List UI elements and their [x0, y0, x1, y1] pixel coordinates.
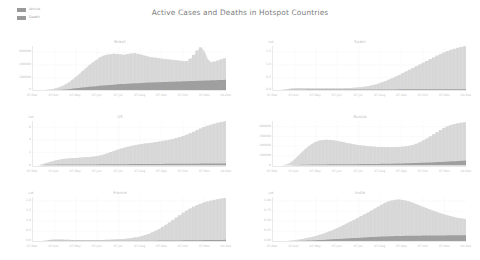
subplot-brazil: Brazil020000040000060000007-Mar07-Apr07-…	[0, 34, 240, 109]
x-tick-label: 07-Apr	[288, 245, 298, 248]
plot-area: 0200000400000600000	[32, 46, 226, 91]
x-tick-label: 07-Aug	[134, 94, 145, 97]
x-axis-ticks: 07-Mar07-Apr07-May07-Jun07-Jul07-Aug07-S…	[32, 170, 226, 176]
y-tick-label: 1.5	[266, 51, 271, 54]
x-tick-label: 07-Apr	[48, 170, 58, 173]
y-tick-label: 1.00	[264, 199, 271, 202]
figure-canvas: Active Death Active Cases and Deaths in …	[0, 0, 480, 260]
x-tick-label: 07-Mar	[267, 170, 278, 173]
x-tick-label: 07-Sep	[156, 170, 167, 173]
y-tick-label: 0	[29, 89, 31, 92]
x-tick-label: 07-Aug	[374, 245, 385, 248]
x-axis-ticks: 07-Mar07-Apr07-May07-Jun07-Jul07-Aug07-S…	[272, 94, 466, 100]
x-tick-label: 07-Nov	[199, 94, 210, 97]
x-axis-ticks: 07-Mar07-Apr07-May07-Jun07-Jul07-Aug07-S…	[272, 245, 466, 251]
y-axis-exponent: 1e6	[28, 115, 34, 119]
subplot-title: Brazil	[0, 39, 240, 44]
x-tick-label: 07-Oct	[418, 94, 428, 97]
y-tick-label: 400000	[259, 126, 271, 129]
x-tick-label: 07-Nov	[199, 245, 210, 248]
x-tick-label: 07-Sep	[396, 94, 407, 97]
y-tick-label: 400000	[19, 63, 31, 66]
plot-area: 0.00.51.01.5	[272, 46, 466, 91]
x-tick-label: 07-Jun	[92, 170, 102, 173]
y-tick-label: 0.5	[26, 229, 31, 232]
x-tick-label: 07-Apr	[288, 170, 298, 173]
subplot-russia: Russia010000020000030000040000007-Mar07-…	[240, 109, 480, 184]
x-tick-label: 07-Aug	[134, 245, 145, 248]
x-axis-ticks: 07-Mar07-Apr07-May07-Jun07-Jul07-Aug07-S…	[32, 245, 226, 251]
x-tick-label: 07-Jun	[92, 245, 102, 248]
x-tick-label: 07-Jul	[114, 170, 123, 173]
x-tick-label: 07-May	[69, 245, 80, 248]
plot-area: 0246	[32, 121, 226, 166]
x-tick-label: 07-May	[309, 245, 320, 248]
x-tick-label: 07-Mar	[267, 245, 278, 248]
x-tick-label: 07-Jun	[92, 94, 102, 97]
x-tick-label: 07-Nov	[439, 245, 450, 248]
x-tick-label: 07-May	[309, 94, 320, 97]
subplot-france: France1e60.00.51.01.52.007-Mar07-Apr07-M…	[0, 185, 240, 260]
plot-area: 0.00.51.01.52.0	[32, 197, 226, 242]
x-tick-label: 07-Aug	[374, 170, 385, 173]
x-tick-label: 04-Dec	[461, 170, 472, 173]
x-tick-label: 07-Sep	[156, 94, 167, 97]
x-tick-label: 07-Apr	[48, 94, 58, 97]
x-tick-label: 07-May	[309, 170, 320, 173]
x-tick-label: 04-Dec	[221, 245, 232, 248]
figure-title: Active Cases and Deaths in Hotspot Count…	[0, 8, 480, 17]
x-tick-label: 07-Jun	[332, 245, 342, 248]
y-axis-exponent: 1e6	[268, 40, 274, 44]
x-tick-label: 04-Dec	[221, 170, 232, 173]
y-axis-exponent: 1e6	[268, 191, 274, 195]
x-tick-label: 07-Aug	[134, 170, 145, 173]
y-tick-label: 1.0	[266, 63, 271, 66]
y-tick-label: 0.0	[26, 239, 31, 242]
x-tick-label: 07-Mar	[267, 94, 278, 97]
x-tick-label: 07-Apr	[288, 94, 298, 97]
x-tick-label: 07-Nov	[439, 170, 450, 173]
x-tick-label: 07-Mar	[27, 245, 38, 248]
y-tick-label: 0.00	[264, 239, 271, 242]
y-tick-label: 0.50	[264, 219, 271, 222]
subplot-grid: Brazil020000040000060000007-Mar07-Apr07-…	[0, 34, 480, 260]
subplot-title: Spain	[240, 39, 480, 44]
subplot-spain: Spain1e60.00.51.01.507-Mar07-Apr07-May07…	[240, 34, 480, 109]
x-tick-label: 07-Oct	[178, 170, 188, 173]
y-tick-label: 1.0	[26, 219, 31, 222]
x-tick-label: 07-Sep	[156, 245, 167, 248]
y-tick-label: 300000	[259, 135, 271, 138]
x-tick-label: 07-Oct	[178, 245, 188, 248]
x-tick-label: 07-Jul	[354, 94, 363, 97]
y-tick-label: 600000	[19, 51, 31, 54]
y-tick-label: 2.0	[26, 199, 31, 202]
x-tick-label: 07-Aug	[374, 94, 385, 97]
y-tick-label: 4	[29, 139, 31, 142]
y-tick-label: 0.5	[266, 76, 271, 79]
subplot-title: France	[0, 190, 240, 195]
x-tick-label: 04-Dec	[461, 94, 472, 97]
x-tick-label: 07-Apr	[48, 245, 58, 248]
x-axis-ticks: 07-Mar07-Apr07-May07-Jun07-Jul07-Aug07-S…	[272, 170, 466, 176]
x-tick-label: 07-Jun	[332, 170, 342, 173]
y-tick-label: 0.75	[264, 209, 271, 212]
y-tick-label: 6	[29, 126, 31, 129]
x-tick-label: 07-Jul	[354, 170, 363, 173]
subplot-title: US	[0, 114, 240, 119]
x-tick-label: 07-Mar	[27, 94, 38, 97]
x-tick-label: 07-May	[69, 170, 80, 173]
y-tick-label: 200000	[259, 145, 271, 148]
x-tick-label: 07-Oct	[418, 245, 428, 248]
subplot-india: India1e60.000.250.500.751.0007-Mar07-Apr…	[240, 185, 480, 260]
x-tick-label: 07-Jul	[354, 245, 363, 248]
y-tick-label: 0	[269, 164, 271, 167]
y-tick-label: 0	[29, 164, 31, 167]
x-tick-label: 04-Dec	[221, 94, 232, 97]
plot-area: 0100000200000300000400000	[272, 121, 466, 166]
plot-area: 0.000.250.500.751.00	[272, 197, 466, 242]
y-tick-label: 0.0	[266, 89, 271, 92]
x-tick-label: 07-Jun	[332, 94, 342, 97]
y-tick-label: 1.5	[26, 209, 31, 212]
y-tick-label: 2	[29, 151, 31, 154]
x-tick-label: 07-Nov	[439, 94, 450, 97]
